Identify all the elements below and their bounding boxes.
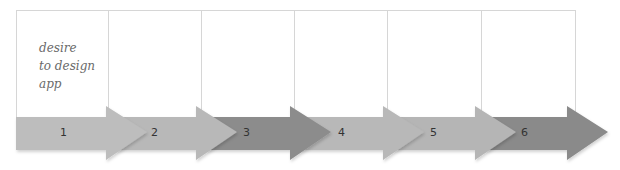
step-number-4: 4 xyxy=(338,126,345,139)
step-number-3: 3 xyxy=(243,126,250,139)
step-number-5: 5 xyxy=(430,126,437,139)
step-number-2: 2 xyxy=(151,126,158,139)
arrow-chain xyxy=(0,0,620,170)
arrow-1 xyxy=(16,106,147,160)
step-number-6: 6 xyxy=(521,126,528,139)
step-number-1: 1 xyxy=(60,126,67,139)
